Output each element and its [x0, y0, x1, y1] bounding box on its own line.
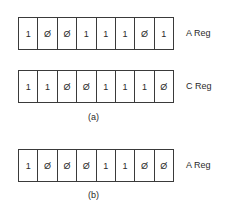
register-a-before: 1 Ø Ø 1 1 1 Ø 1: [18, 17, 174, 50]
bit-cell: 1: [19, 18, 38, 49]
bit-cell: Ø: [135, 18, 154, 49]
register-label: A Reg: [186, 160, 211, 170]
bit-cell: Ø: [155, 71, 173, 102]
bit-cell: Ø: [58, 18, 77, 49]
bit-cell: Ø: [155, 150, 173, 181]
bit-cell: Ø: [77, 150, 96, 181]
bit-cell: Ø: [58, 71, 77, 102]
bit-cell: Ø: [58, 150, 77, 181]
bit-cell: Ø: [135, 150, 154, 181]
bit-cell: 1: [97, 150, 116, 181]
bit-cell: 1: [116, 150, 135, 181]
caption-a: (a): [88, 112, 99, 122]
bit-cell: 1: [97, 71, 116, 102]
bit-cell: 1: [77, 18, 96, 49]
register-a-after: 1 Ø Ø Ø 1 1 Ø Ø: [18, 149, 174, 182]
register-label: C Reg: [186, 81, 212, 91]
bit-cell: 1: [135, 71, 154, 102]
bit-cell: 1: [19, 71, 38, 102]
register-c: 1 1 Ø Ø 1 1 1 Ø: [18, 70, 174, 103]
bit-cell: 1: [97, 18, 116, 49]
bit-cell: 1: [116, 18, 135, 49]
bit-cell: Ø: [38, 150, 57, 181]
bit-cell: 1: [116, 71, 135, 102]
register-label: A Reg: [186, 28, 211, 38]
bit-cell: Ø: [77, 71, 96, 102]
bit-cell: Ø: [38, 18, 57, 49]
caption-b: (b): [88, 190, 99, 200]
bit-cell: 1: [19, 150, 38, 181]
bit-cell: 1: [155, 18, 173, 49]
bit-cell: 1: [38, 71, 57, 102]
